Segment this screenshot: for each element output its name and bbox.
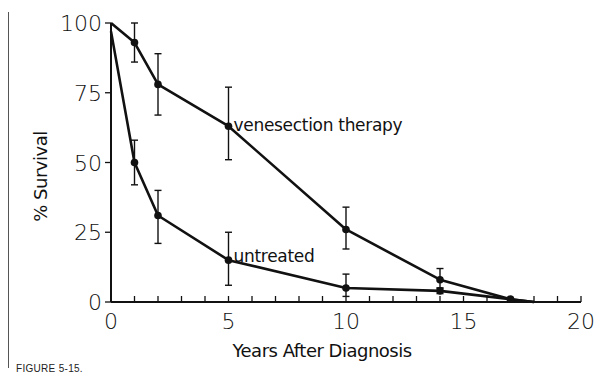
series-label-untreated: untreated [234,246,315,266]
data-point [225,256,233,264]
x-tick-label: 10 [332,309,360,334]
y-tick-label: 0 [88,290,102,315]
series-line-untreated [111,31,534,302]
data-point [507,295,515,303]
y-axis-label: % Survival [30,131,51,221]
data-point [225,122,233,130]
data-point [342,284,350,292]
data-point [436,287,444,295]
x-tick-label: 20 [567,309,595,334]
series-label-venesection: venesection therapy [234,115,403,135]
data-point [131,159,139,167]
y-tick-label: 50 [74,151,102,176]
figure-caption: FIGURE 5-15. [16,363,83,374]
x-axis-label: Years After Diagnosis [231,340,411,361]
data-point [131,39,139,47]
data-point [342,226,350,234]
data-point [154,212,162,220]
data-point [436,276,444,284]
x-tick-label: 15 [450,309,478,334]
survival-chart: 051015200255075100Years After Diagnosis%… [0,0,609,380]
x-tick-label: 0 [104,309,118,334]
series-line-venesection [111,23,534,302]
y-tick-label: 25 [74,220,102,245]
y-tick-label: 75 [74,81,102,106]
y-tick-label: 100 [60,11,102,36]
x-tick-label: 5 [222,309,236,334]
data-point [154,81,162,89]
